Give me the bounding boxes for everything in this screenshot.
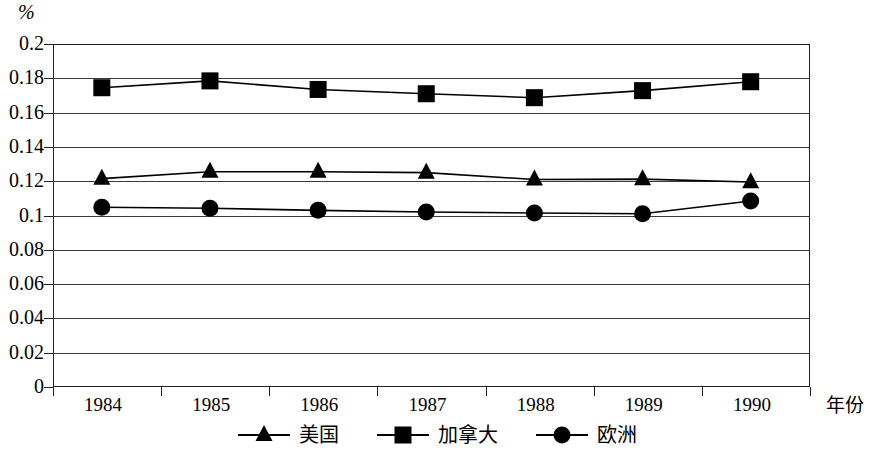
legend-label: 加拿大	[438, 424, 498, 446]
y-axis-tick	[44, 147, 53, 148]
y-axis-tick	[44, 353, 53, 354]
gridline	[53, 216, 810, 217]
x-axis-tick-label: 1989	[625, 394, 663, 416]
x-axis-tick	[377, 387, 378, 396]
circle-marker	[534, 424, 590, 446]
gridline	[53, 250, 810, 251]
gridline	[53, 318, 810, 319]
y-axis-tick-label: 0.16	[9, 102, 44, 122]
x-axis-tick	[161, 387, 162, 396]
gridline	[53, 181, 810, 182]
x-axis-tick-label: 1986	[300, 394, 338, 416]
y-axis-tick	[44, 250, 53, 251]
gridline	[53, 353, 810, 354]
x-axis-tick-label: 1985	[192, 394, 230, 416]
y-axis-tick-label: 0.04	[9, 307, 44, 327]
legend-label: 欧洲	[597, 424, 637, 446]
x-axis-tick-label: 1988	[517, 394, 555, 416]
y-axis-tick-label: 0.14	[9, 136, 44, 156]
y-axis-tick	[44, 113, 53, 114]
legend-label: 美国	[299, 424, 339, 446]
y-axis-tick	[44, 216, 53, 217]
y-axis-tick-label: 0	[34, 376, 44, 396]
y-axis-unit-label: %	[18, 2, 35, 22]
y-axis-tick-label: 0.18	[9, 67, 44, 87]
x-axis-tick-label: 1987	[409, 394, 447, 416]
square-marker	[375, 424, 431, 446]
chart-legend: 美国加拿大欧洲	[0, 424, 873, 446]
y-axis-tick	[44, 284, 53, 285]
y-axis-tick-label: 0.08	[9, 239, 44, 259]
gridline	[53, 113, 810, 114]
x-axis-tick	[594, 387, 595, 396]
legend-item[interactable]: 欧洲	[534, 424, 637, 446]
legend-item[interactable]: 美国	[236, 424, 339, 446]
x-axis-tick	[486, 387, 487, 396]
y-axis-tick	[44, 44, 53, 45]
x-axis-title: 年份	[826, 394, 864, 416]
x-axis-tick	[53, 387, 54, 396]
line-chart: % 00.020.040.060.080.10.120.140.160.180.…	[0, 0, 873, 461]
y-axis-tick-label: 0.06	[9, 273, 44, 293]
y-axis-tick-label: 0.2	[19, 33, 44, 53]
y-axis-tick	[44, 387, 53, 388]
legend-item[interactable]: 加拿大	[375, 424, 498, 446]
x-axis-tick-label: 1990	[733, 394, 771, 416]
y-axis-tick-label: 0.12	[9, 170, 44, 190]
x-axis-tick	[702, 387, 703, 396]
x-axis-tick	[269, 387, 270, 396]
square-marker	[395, 427, 412, 444]
y-axis-tick	[44, 78, 53, 79]
triangle-marker	[256, 425, 273, 441]
y-axis-tick-label: 0.1	[19, 205, 44, 225]
x-axis-tick-label: 1984	[84, 394, 122, 416]
y-axis-tick-label: 0.02	[9, 342, 44, 362]
y-axis-tick	[44, 318, 53, 319]
y-axis-tick	[44, 181, 53, 182]
circle-marker	[554, 427, 571, 444]
triangle-marker	[236, 424, 292, 446]
gridline	[53, 78, 810, 79]
gridline	[53, 284, 810, 285]
x-axis-tick	[810, 387, 811, 396]
gridline	[53, 147, 810, 148]
